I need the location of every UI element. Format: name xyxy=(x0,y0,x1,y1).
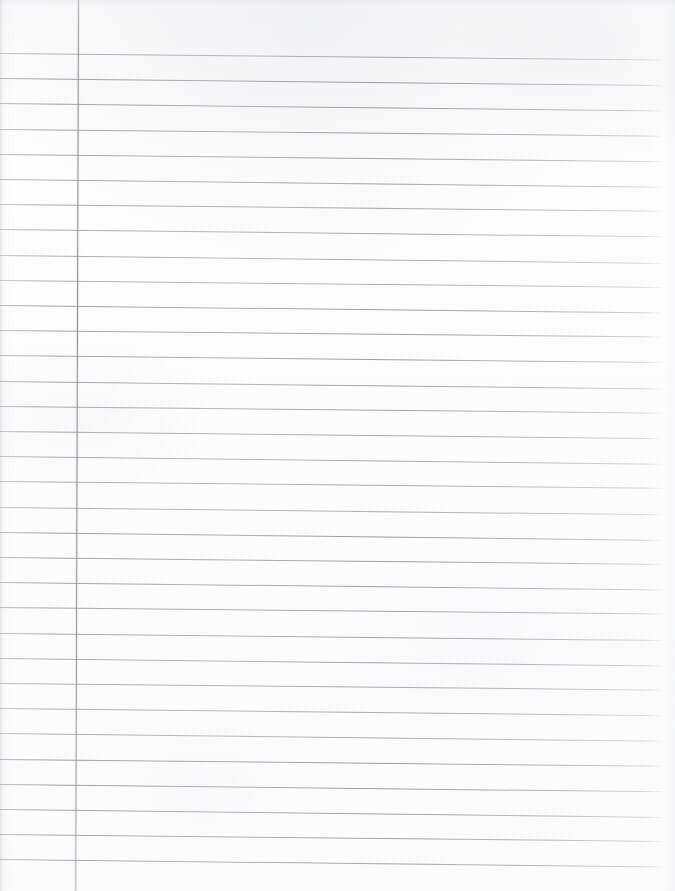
notebook-page xyxy=(0,0,675,891)
scan-edge-shadow-left xyxy=(0,0,10,891)
writing-area[interactable] xyxy=(78,0,675,891)
